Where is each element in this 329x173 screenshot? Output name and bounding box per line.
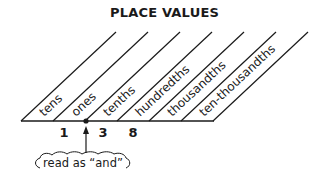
digit-ones: 1	[59, 125, 68, 140]
decimal-point-note: read as “and”	[43, 156, 123, 170]
place-label-tens: tens	[36, 91, 65, 119]
place-label-ones: ones	[68, 89, 98, 119]
digit-hundredths: 8	[128, 125, 137, 140]
arrowhead-icon	[83, 126, 89, 134]
decimal-point	[83, 118, 88, 123]
place-value-chart: tens ones tenths hundredths thousandths …	[0, 0, 329, 173]
digit-tenths: 3	[98, 125, 107, 140]
